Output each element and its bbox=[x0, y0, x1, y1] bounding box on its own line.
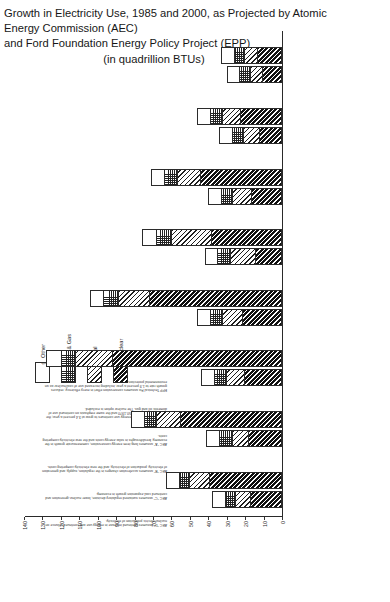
bar-segment-nuclear bbox=[212, 230, 281, 245]
bar-segment-oil-gas bbox=[220, 431, 233, 446]
bar[interactable] bbox=[46, 350, 282, 367]
bar-segment-oil-gas bbox=[235, 48, 246, 63]
bar-segment-oil-gas bbox=[215, 370, 228, 385]
bar-segment-other bbox=[220, 128, 232, 143]
x-axis-line bbox=[282, 31, 283, 517]
bar-series-container: 1985 2000AEC "A"1985 2000AEC "B"1985 200… bbox=[25, 31, 282, 516]
y-tick-label: 140 bbox=[22, 521, 28, 551]
bar-segment-nuclear bbox=[249, 431, 281, 446]
figure-rotation-wrapper: OtherOil & GasCoalNuclear AEC "D" assume… bbox=[0, 0, 390, 602]
bar[interactable] bbox=[227, 66, 282, 83]
bar-segment-nuclear bbox=[258, 48, 281, 63]
bar-segment-other bbox=[222, 48, 234, 63]
bar-segment-other bbox=[152, 170, 165, 185]
bar-segment-oil-gas bbox=[145, 412, 158, 427]
bar[interactable] bbox=[131, 411, 282, 428]
bar-segment-nuclear bbox=[245, 370, 281, 385]
bar-segment-other bbox=[143, 230, 158, 245]
bar-segment-nuclear bbox=[260, 128, 281, 143]
bar[interactable] bbox=[206, 430, 282, 447]
bar-segment-nuclear bbox=[252, 189, 281, 204]
bar-segment-other bbox=[202, 370, 215, 385]
y-tick-label: 0 bbox=[280, 521, 286, 551]
bar-segment-oil-gas bbox=[226, 492, 237, 507]
bar-segment-nuclear bbox=[243, 310, 281, 325]
y-tick-label: 40 bbox=[206, 521, 212, 551]
bar-segment-nuclear bbox=[210, 473, 281, 488]
bar-segment-other bbox=[228, 67, 240, 82]
bar-segment-nuclear bbox=[241, 109, 281, 124]
bar-segment-other bbox=[206, 249, 219, 264]
bar-segment-oil-gas bbox=[211, 310, 224, 325]
bar-segment-oil-gas bbox=[62, 351, 77, 366]
y-tick-label: 30 bbox=[225, 521, 231, 551]
bar-segment-oil-gas bbox=[218, 249, 231, 264]
bar-segment-coal bbox=[233, 431, 249, 446]
bar-segment-oil-gas bbox=[233, 128, 244, 143]
bar-segment-coal bbox=[233, 189, 253, 204]
bar-segment-coal bbox=[244, 128, 260, 143]
bar-segment-coal bbox=[119, 291, 150, 306]
bar-segment-coal bbox=[223, 310, 243, 325]
bar[interactable] bbox=[212, 491, 282, 508]
bar-segment-other bbox=[198, 310, 211, 325]
bar[interactable] bbox=[221, 47, 282, 64]
bar-segment-oil-gas bbox=[180, 473, 191, 488]
bar[interactable] bbox=[197, 309, 282, 326]
bar-segment-other bbox=[207, 431, 220, 446]
bar-segment-nuclear bbox=[263, 67, 281, 82]
y-tick-label: 110 bbox=[77, 521, 83, 551]
y-tick-label: 50 bbox=[188, 521, 194, 551]
bar-segment-oil-gas bbox=[157, 230, 172, 245]
bar-segment-coal bbox=[190, 473, 210, 488]
bar-segment-coal bbox=[245, 48, 257, 63]
bar[interactable] bbox=[142, 229, 282, 246]
bar[interactable] bbox=[166, 472, 282, 489]
bar-segment-other bbox=[132, 412, 145, 427]
bar-segment-coal bbox=[251, 67, 263, 82]
bar-segment-coal bbox=[178, 170, 202, 185]
y-tick-label: 10 bbox=[262, 521, 268, 551]
bar-segment-nuclear bbox=[256, 249, 281, 264]
y-tick-label: 60 bbox=[169, 521, 175, 551]
bar-segment-oil-gas bbox=[211, 109, 224, 124]
bar[interactable] bbox=[90, 290, 282, 307]
bar-segment-coal bbox=[227, 370, 245, 385]
plot-area: 0102030405060708090100110120130140 1985 … bbox=[25, 31, 283, 517]
y-tick-label: 70 bbox=[151, 521, 157, 551]
bar-segment-nuclear bbox=[181, 412, 281, 427]
bar-segment-other bbox=[209, 189, 222, 204]
bar-segment-coal bbox=[223, 109, 241, 124]
bar-segment-coal bbox=[231, 249, 256, 264]
bar[interactable] bbox=[208, 188, 282, 205]
chart-page: Growth in Electricity Use, 1985 and 2000… bbox=[0, 0, 390, 602]
bar[interactable] bbox=[197, 108, 282, 125]
y-tick-label: 20 bbox=[243, 521, 249, 551]
bar-segment-oil-gas bbox=[104, 291, 119, 306]
bar-segment-other bbox=[198, 109, 211, 124]
bar[interactable] bbox=[151, 169, 282, 186]
bar-segment-coal bbox=[172, 230, 212, 245]
bar-segment-nuclear bbox=[150, 291, 281, 306]
bar[interactable] bbox=[219, 127, 282, 144]
bar-segment-other bbox=[167, 473, 180, 488]
y-tick-label: 130 bbox=[40, 521, 46, 551]
y-tick-label: 120 bbox=[59, 521, 65, 551]
bar[interactable] bbox=[205, 248, 282, 265]
bar-segment-oil-gas bbox=[165, 170, 178, 185]
bar-segment-coal bbox=[157, 412, 181, 427]
bar-segment-oil-gas bbox=[240, 67, 251, 82]
y-tick-label: 100 bbox=[96, 521, 102, 551]
bar[interactable] bbox=[201, 369, 282, 386]
bar-segment-other bbox=[47, 351, 62, 366]
bar-segment-nuclear bbox=[113, 351, 281, 366]
bar-segment-oil-gas bbox=[222, 189, 233, 204]
bar-segment-other bbox=[213, 492, 226, 507]
y-tick-label: 90 bbox=[114, 521, 120, 551]
bar-segment-nuclear bbox=[251, 492, 281, 507]
bar-segment-other bbox=[91, 291, 104, 306]
chart-figure: OtherOil & GasCoalNuclear AEC "D" assume… bbox=[19, 23, 371, 579]
bar-segment-coal bbox=[236, 492, 250, 507]
bar-segment-coal bbox=[76, 351, 113, 366]
y-tick-label: 80 bbox=[133, 521, 139, 551]
